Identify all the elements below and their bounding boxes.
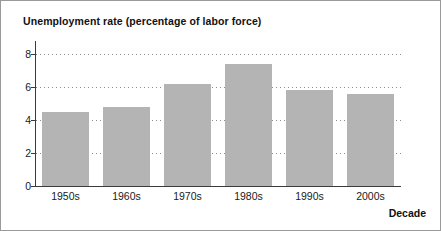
y-axis-tick-label: 8 (7, 48, 31, 60)
x-axis-tick-labels: 1950s1960s1970s1980s1990s2000s (35, 190, 401, 206)
x-axis-tick-label: 1990s (279, 190, 340, 202)
y-axis-tick-mark (31, 87, 35, 88)
y-axis-tick-label: 2 (7, 147, 31, 159)
bar (42, 112, 89, 186)
plot-area (35, 41, 401, 187)
bar (103, 107, 150, 186)
x-axis-tick-label: 2000s (340, 190, 401, 202)
y-axis-tick-label: 6 (7, 81, 31, 93)
x-axis-tick-label: 1960s (96, 190, 157, 202)
y-axis-tick-mark (31, 54, 35, 55)
y-axis-tick-label: 0 (7, 180, 31, 192)
gridline (36, 87, 401, 88)
bar (286, 90, 333, 186)
bar (225, 64, 272, 186)
y-axis-tick-label: 4 (7, 114, 31, 126)
y-axis-tick-mark (31, 153, 35, 154)
chart-title: Unemployment rate (percentage of labor f… (23, 15, 261, 27)
chart-figure: Unemployment rate (percentage of labor f… (0, 0, 441, 231)
y-axis-tick-labels: 02468 (7, 41, 31, 187)
y-axis-tick-mark (31, 120, 35, 121)
x-axis-tick-label: 1980s (218, 190, 279, 202)
x-axis-title: Decade (389, 207, 426, 219)
gridline (36, 54, 401, 55)
y-axis-tick-mark (31, 186, 35, 187)
y-axis-line (35, 41, 36, 187)
bar (347, 94, 394, 186)
bar (164, 84, 211, 186)
x-axis-tick-label: 1970s (157, 190, 218, 202)
x-axis-line (35, 186, 401, 187)
x-axis-tick-label: 1950s (35, 190, 96, 202)
